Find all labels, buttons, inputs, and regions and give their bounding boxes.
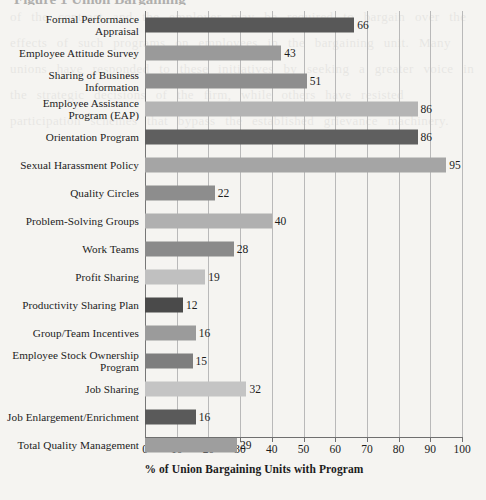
- category-label: Employee Stock OwnershipProgram: [0, 349, 139, 374]
- bar-value-label: 43: [281, 47, 296, 59]
- bar-value-label: 86: [418, 103, 433, 115]
- x-axis-title: % of Union Bargaining Units with Program: [0, 463, 486, 475]
- chart-row: Job Enlargement/Enrichment16: [0, 403, 486, 431]
- horizontal-bar-chart: 0102030405060708090100 Formal Performanc…: [0, 0, 486, 500]
- x-axis-line: [145, 437, 463, 438]
- bar: [145, 130, 418, 145]
- bar: [145, 410, 196, 425]
- bar: [145, 242, 234, 257]
- chart-row: Problem-Solving Groups40: [0, 207, 486, 235]
- bar-value-label: 29: [237, 439, 252, 451]
- chart-row: Employee AssistanceProgram (EAP)86: [0, 95, 486, 123]
- category-label: Job Sharing: [0, 383, 139, 395]
- bar-value-label: 22: [215, 187, 230, 199]
- category-label: Group/Team Incentives: [0, 327, 139, 339]
- bar-value-label: 95: [446, 159, 461, 171]
- category-label: Profit Sharing: [0, 271, 139, 283]
- chart-row: Productivity Sharing Plan12: [0, 291, 486, 319]
- chart-row: Sharing of BusinessInformation51: [0, 67, 486, 95]
- chart-row: Formal PerformanceAppraisal66: [0, 11, 486, 39]
- chart-row: Group/Team Incentives16: [0, 319, 486, 347]
- bar: [145, 214, 272, 229]
- bar-value-label: 86: [418, 131, 433, 143]
- chart-row: Employee Attitude Survey43: [0, 39, 486, 67]
- chart-row: Work Teams28: [0, 235, 486, 263]
- bar: [145, 46, 281, 61]
- bar: [145, 102, 418, 117]
- category-label: Problem-Solving Groups: [0, 215, 139, 227]
- chart-row: Employee Stock OwnershipProgram15: [0, 347, 486, 375]
- category-label: Total Quality Management: [0, 439, 139, 451]
- bar-value-label: 51: [307, 75, 322, 87]
- bar-value-label: 32: [246, 383, 261, 395]
- bar: [145, 354, 193, 369]
- category-label: Formal PerformanceAppraisal: [0, 13, 139, 38]
- chart-row: Job Sharing32: [0, 375, 486, 403]
- category-label: Sexual Harassment Policy: [0, 159, 139, 171]
- bar: [145, 74, 307, 89]
- bar: [145, 326, 196, 341]
- bar: [145, 18, 354, 33]
- chart-row: Sexual Harassment Policy95: [0, 151, 486, 179]
- bar-value-label: 40: [272, 215, 287, 227]
- category-label: Employee AssistanceProgram (EAP): [0, 97, 139, 122]
- bar: [145, 382, 246, 397]
- bar: [145, 298, 183, 313]
- bar-value-label: 15: [193, 355, 208, 367]
- category-label: Job Enlargement/Enrichment: [0, 411, 139, 423]
- bar-value-label: 28: [234, 243, 249, 255]
- bar-value-label: 16: [196, 327, 211, 339]
- category-label: Quality Circles: [0, 187, 139, 199]
- chart-row: Orientation Program86: [0, 123, 486, 151]
- category-label: Work Teams: [0, 243, 139, 255]
- category-label: Sharing of BusinessInformation: [0, 69, 139, 94]
- bar: [145, 186, 215, 201]
- chart-bar-rows: Formal PerformanceAppraisal66Employee At…: [0, 11, 486, 459]
- bar-value-label: 12: [183, 299, 198, 311]
- bar: [145, 158, 446, 173]
- chart-row: Profit Sharing19: [0, 263, 486, 291]
- category-label: Orientation Program: [0, 131, 139, 143]
- chart-row: Total Quality Management29: [0, 431, 486, 459]
- category-label: Employee Attitude Survey: [0, 47, 139, 59]
- bar-value-label: 66: [354, 19, 369, 31]
- category-label: Productivity Sharing Plan: [0, 299, 139, 311]
- chart-row: Quality Circles22: [0, 179, 486, 207]
- bar-value-label: 16: [196, 411, 211, 423]
- bar: [145, 438, 237, 453]
- bar-value-label: 19: [205, 271, 220, 283]
- bar: [145, 270, 205, 285]
